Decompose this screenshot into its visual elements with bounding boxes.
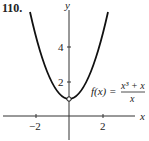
x-tick-label: −2 bbox=[29, 120, 41, 132]
x-axis-label: x bbox=[139, 110, 145, 122]
x-tick-label: 2 bbox=[100, 120, 106, 132]
function-numerator: x³ + x bbox=[120, 80, 145, 91]
function-graph: 110. x y −2 2 4 2 f(x) = x³ + x x bbox=[0, 0, 149, 141]
hole-marker bbox=[67, 97, 71, 101]
function-lhs: f(x) = bbox=[91, 85, 116, 98]
y-tick-label: 2 bbox=[58, 76, 64, 88]
y-tick-label: 4 bbox=[58, 41, 64, 53]
y-axis-label: y bbox=[64, 0, 70, 11]
problem-number: 110. bbox=[2, 1, 22, 15]
function-denominator: x bbox=[129, 93, 135, 104]
